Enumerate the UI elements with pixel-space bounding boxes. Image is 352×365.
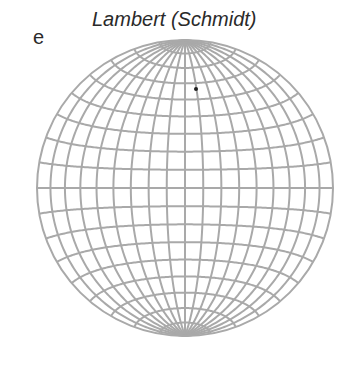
net-grid	[37, 40, 333, 336]
schmidt-net	[0, 0, 352, 365]
plotted-points	[194, 87, 198, 91]
data-point	[194, 87, 198, 91]
